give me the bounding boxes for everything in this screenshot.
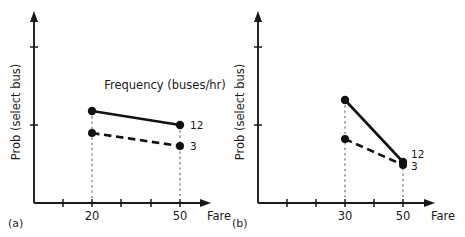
panel-a-series-dashed-point-1 (88, 129, 96, 137)
panel-a-series-solid-line (92, 111, 180, 125)
panel-b-series-solid-point-1 (341, 96, 349, 104)
panel-b-series-solid-line (345, 100, 403, 162)
panel-a-y-axis-arrow-icon (30, 11, 38, 22)
panel-a-y-axis-title: Prob (select bus) (9, 64, 23, 161)
panel-a-legend-title: Frequency (buses/hr) (104, 78, 226, 92)
panel-b: 12 3 30 50 Fare Prob (select bus) (b) (232, 11, 455, 230)
panel-b-series-dashed-point-1 (341, 135, 349, 143)
panel-b-x-axis-arrow-icon (424, 199, 435, 207)
panel-a-series-dashed-line (92, 133, 180, 146)
panel-a-series-dashed-label: 3 (190, 140, 197, 152)
panel-b-x-tick-label-50: 50 (396, 209, 411, 223)
panel-a-series-solid-point-1 (88, 107, 96, 115)
panel-b-series-solid-label: 12 (411, 148, 424, 160)
panel-a-caption: (a) (8, 217, 23, 230)
panel-b-y-axis-arrow-icon (254, 11, 262, 22)
panel-a-series-dashed-point-2 (176, 142, 184, 150)
panel-a-x-axis-title: Fare (207, 209, 231, 223)
panel-a: 12 3 Frequency (buses/hr) 20 50 Fare Pro… (8, 11, 231, 230)
panel-b-caption: (b) (232, 217, 248, 230)
figure-container: 12 3 Frequency (buses/hr) 20 50 Fare Pro… (0, 0, 465, 237)
panel-a-x-tick-label-50: 50 (173, 209, 188, 223)
panel-b-series-solid-point-2 (399, 158, 407, 166)
two-panel-line-chart: 12 3 Frequency (buses/hr) 20 50 Fare Pro… (0, 0, 465, 237)
panel-a-x-tick-label-20: 20 (85, 209, 100, 223)
panel-b-x-tick-label-30: 30 (338, 209, 353, 223)
panel-a-x-axis-arrow-icon (200, 199, 211, 207)
panel-a-series-solid-label: 12 (190, 119, 203, 131)
panel-b-series-dashed-label: 3 (411, 160, 418, 172)
panel-b-x-axis-title: Fare (431, 209, 455, 223)
panel-a-series-solid-point-2 (176, 121, 184, 129)
panel-b-y-axis-title: Prob (select bus) (233, 64, 247, 161)
